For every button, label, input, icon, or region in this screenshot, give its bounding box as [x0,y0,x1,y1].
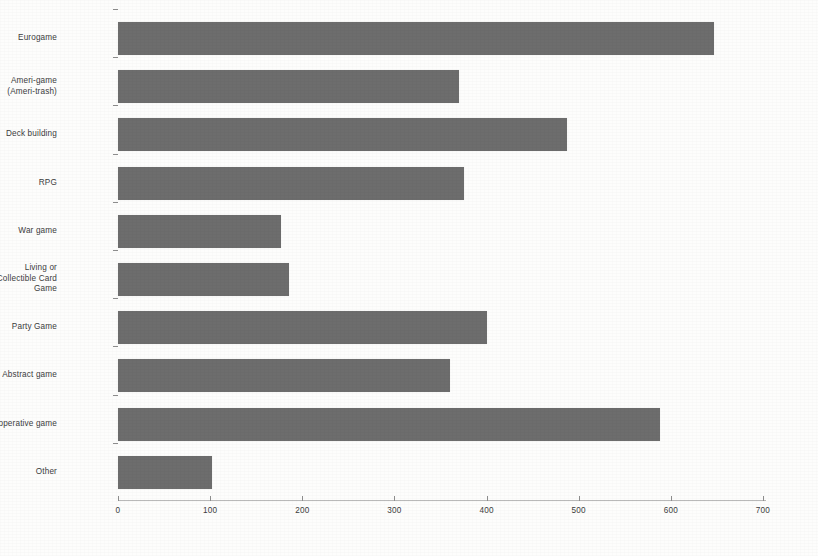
y-axis-tick [113,298,118,299]
y-axis-label: Ameri-game (Ameri-trash) [0,76,57,97]
bar [118,311,487,344]
x-axis-tick-label: 200 [295,506,309,515]
bar-row: RPG [118,159,763,207]
y-axis-tick [113,202,118,203]
y-axis-label: Living or Collectible Card Game [0,263,57,295]
y-axis-label: Party Game [0,322,57,333]
bar-chart: EurogameAmeri-game (Ameri-trash)Deck bui… [0,0,818,556]
y-axis-label: Other [0,467,57,478]
bar [118,408,660,441]
plot-area: EurogameAmeri-game (Ameri-trash)Deck bui… [118,14,763,496]
bar-row: Ameri-game (Ameri-trash) [118,62,763,110]
bar [118,263,289,296]
bar-row: Deck building [118,110,763,158]
y-axis-tick [113,443,118,444]
bar [118,359,450,392]
y-axis-label: Abstract game [0,370,57,381]
x-axis-tick [118,496,119,501]
y-axis-tick [113,57,118,58]
bar-row: Cooperative game [118,400,763,448]
bar [118,456,212,489]
bar [118,22,714,55]
y-axis-tick [113,395,118,396]
x-axis-line [118,500,766,501]
x-axis-tick-label: 600 [664,506,678,515]
x-axis-tick-label: 100 [203,506,217,515]
bar-row: Abstract game [118,351,763,399]
bar [118,167,464,200]
x-axis-tick-label: 700 [756,506,770,515]
y-axis-label: RPG [0,178,57,189]
x-axis-tick [763,496,764,501]
x-axis-tick-label: 400 [479,506,493,515]
y-axis-label: Deck building [0,129,57,140]
y-axis-tick [113,250,118,251]
bar-row: Living or Collectible Card Game [118,255,763,303]
bar-row: Party Game [118,303,763,351]
bar [118,70,459,103]
bar [118,118,567,151]
y-axis-tick [113,346,118,347]
x-axis-tick-label: 500 [572,506,586,515]
y-axis-label: War game [0,226,57,237]
x-axis-tick [394,496,395,501]
bar-row: Eurogame [118,14,763,62]
bar-row: War game [118,207,763,255]
x-axis-tick-label: 0 [116,506,121,515]
x-axis-tick [579,496,580,501]
x-axis-tick [210,496,211,501]
y-axis-label: Cooperative game [0,419,57,430]
y-axis-tick [113,105,118,106]
x-axis-tick [487,496,488,501]
x-axis-tick-label: 300 [387,506,401,515]
bar-row: Other [118,448,763,496]
y-axis-label: Eurogame [0,33,57,44]
x-axis-tick [302,496,303,501]
bar [118,215,281,248]
y-axis-tick [113,154,118,155]
y-axis-tick [113,9,118,10]
x-axis-tick [671,496,672,501]
